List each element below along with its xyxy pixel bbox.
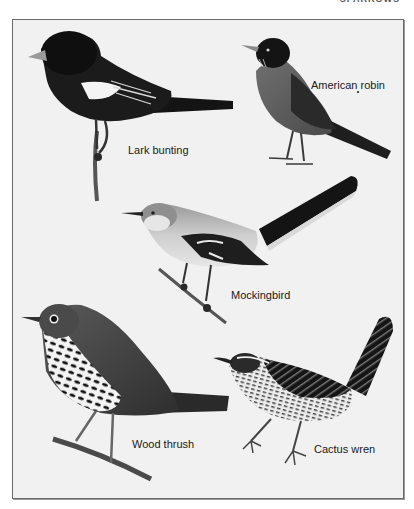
stray-dot-mark [357, 91, 359, 93]
caption-american-robin: American robin [311, 80, 385, 91]
caption-lark-bunting: Lark bunting [128, 145, 189, 156]
caption-mockingbird: Mockingbird [231, 290, 290, 301]
caption-wood-thrush: Wood thrush [132, 439, 194, 450]
bird-plate: Lark bunting American robin Mockingbird … [12, 19, 404, 499]
caption-cactus-wren: Cactus wren [314, 444, 375, 455]
american-robin-illustration [241, 38, 391, 164]
bird-illustrations [1, 1, 414, 509]
lark-bunting-illustration [28, 31, 233, 201]
wood-thrush-illustration [21, 304, 229, 479]
